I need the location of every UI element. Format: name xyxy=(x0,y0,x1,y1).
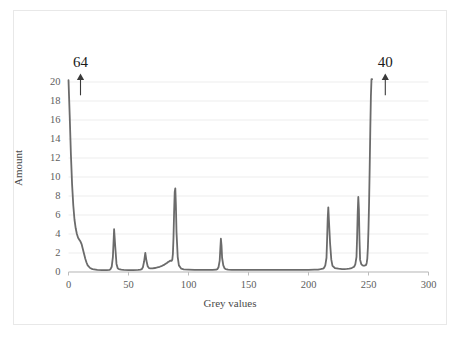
chart-figure: 02468101214161820 050100150200250300 644… xyxy=(0,0,460,345)
chart-plot-area xyxy=(0,0,460,345)
y-tick-label: 14 xyxy=(39,134,61,145)
y-tick-label: 10 xyxy=(39,172,61,183)
y-tick-label: 18 xyxy=(39,96,61,107)
gridlines xyxy=(69,82,429,272)
x-axis-title: Grey values xyxy=(0,297,460,309)
y-tick-label: 6 xyxy=(39,210,61,221)
y-tick-label: 2 xyxy=(39,248,61,259)
x-tick-label: 150 xyxy=(234,280,264,291)
annotation-arrow-head xyxy=(77,73,84,80)
y-tick-label: 8 xyxy=(39,191,61,202)
x-tick-label: 250 xyxy=(354,280,384,291)
annotation-label-64: 64 xyxy=(61,55,101,70)
series-line-0 xyxy=(69,79,373,270)
y-tick-label: 20 xyxy=(39,77,61,88)
y-axis-title: Amount xyxy=(12,133,24,203)
chart-axes xyxy=(69,272,429,276)
x-tick-label: 0 xyxy=(54,280,84,291)
x-tick-label: 100 xyxy=(174,280,204,291)
annotation-label-40: 40 xyxy=(365,55,405,70)
annotation-arrow-head xyxy=(382,73,389,80)
y-tick-label: 12 xyxy=(39,153,61,164)
y-tick-label: 4 xyxy=(39,229,61,240)
annotation-arrows xyxy=(77,73,389,95)
y-tick-label: 16 xyxy=(39,115,61,126)
x-tick-label: 200 xyxy=(294,280,324,291)
x-tick-label: 50 xyxy=(114,280,144,291)
data-series-line xyxy=(69,79,373,270)
x-tick-label: 300 xyxy=(414,280,444,291)
y-tick-label: 0 xyxy=(39,267,61,278)
